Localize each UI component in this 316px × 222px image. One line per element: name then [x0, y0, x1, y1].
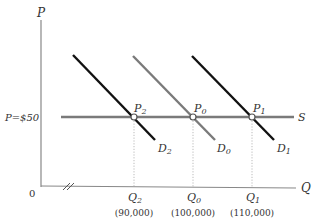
equilibrium-label-p0: P0 — [193, 102, 207, 116]
equilibrium-label-p1: P1 — [252, 102, 266, 116]
y-axis-label: P — [36, 6, 46, 20]
supply-demand-diagram: P Q 0 P=$50 S D2 D0 D1 P2 P0 P1 Q2 Q0 Q1… — [0, 0, 316, 222]
demand-label-d0: D0 — [216, 142, 231, 156]
demand-label-d2: D2 — [157, 142, 172, 156]
quantity-label-q1: Q1 — [246, 191, 260, 205]
equilibrium-label-p2: P2 — [133, 102, 147, 116]
x-axis-label: Q — [301, 181, 311, 195]
quantity-guides — [134, 118, 252, 187]
demand-label-d1: D1 — [276, 142, 291, 156]
supply-label: S — [298, 111, 306, 124]
x-axis — [41, 186, 296, 188]
origin-label: 0 — [29, 188, 35, 199]
price-label: P=$50 — [4, 112, 40, 123]
quantity-label-q0: Q0 — [187, 191, 201, 205]
quantity-value-q2: (90,000) — [115, 208, 154, 218]
quantity-label-q2: Q2 — [128, 191, 142, 205]
quantity-value-q0: (100,000) — [171, 208, 215, 218]
demand-curve-d2 — [73, 55, 155, 140]
quantity-value-q1: (110,000) — [230, 208, 274, 218]
